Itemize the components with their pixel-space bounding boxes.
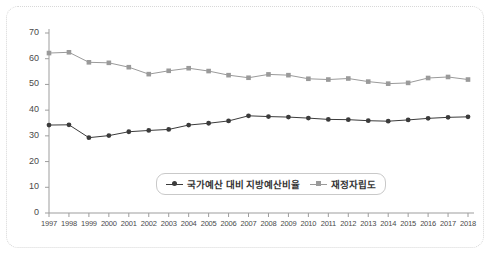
y-axis-tick-label: 50 (17, 79, 39, 88)
y-axis-tick-label: 10 (17, 182, 39, 191)
data-point (87, 60, 92, 65)
data-point (186, 123, 191, 128)
data-point (286, 115, 291, 120)
data-point (266, 114, 271, 119)
data-point (206, 69, 211, 74)
data-point (127, 65, 132, 70)
data-point (47, 123, 52, 128)
data-point (146, 72, 151, 77)
data-point (67, 50, 72, 55)
data-point (146, 128, 151, 133)
data-point (246, 113, 251, 118)
chart-figure: 0102030405060701997199819992000200120022… (0, 0, 492, 258)
data-point (106, 133, 111, 138)
data-point (446, 75, 451, 80)
x-axis-tick-label: 2018 (455, 220, 481, 228)
data-point (386, 81, 391, 86)
legend-square-marker-icon (310, 180, 327, 188)
y-axis-tick-label: 20 (17, 157, 39, 166)
data-point (266, 72, 271, 77)
data-point (67, 122, 72, 127)
data-point (226, 119, 231, 124)
data-point (306, 116, 311, 121)
data-point (166, 69, 171, 74)
y-axis-tick-label: 70 (17, 28, 39, 37)
legend-item: 재정자립도 (310, 177, 376, 191)
data-point (366, 118, 371, 123)
data-point (226, 73, 231, 78)
data-point (206, 121, 211, 126)
chart-legend: 국가예산 대비 지방예산비율재정자립도 (156, 173, 386, 195)
data-point (426, 76, 431, 81)
data-point (246, 75, 251, 80)
data-point (426, 116, 431, 121)
series-line-0 (49, 116, 468, 138)
data-point (386, 119, 391, 124)
data-point (466, 114, 471, 119)
data-point (406, 81, 411, 86)
legend-item: 국가예산 대비 지방예산비율 (166, 177, 300, 191)
data-point (107, 61, 112, 66)
data-point (306, 76, 311, 81)
y-axis-tick-label: 40 (17, 105, 39, 114)
data-point (166, 127, 171, 132)
data-point (406, 118, 411, 123)
data-point (126, 129, 131, 134)
data-point (326, 117, 331, 122)
legend-label: 재정자립도 (331, 177, 376, 191)
data-point (366, 79, 371, 84)
y-axis-tick-label: 0 (17, 208, 39, 217)
y-axis-tick-label: 60 (17, 54, 39, 63)
legend-label: 국가예산 대비 지방예산비율 (187, 177, 300, 191)
data-point (346, 76, 351, 81)
data-point (87, 135, 92, 140)
legend-circle-marker-icon (166, 180, 183, 188)
data-point (286, 73, 291, 78)
data-point (466, 77, 471, 82)
data-point (186, 66, 191, 71)
series-line-1 (49, 52, 468, 83)
data-point (326, 77, 331, 82)
data-point (47, 51, 52, 56)
y-axis-tick-label: 30 (17, 131, 39, 140)
data-point (446, 115, 451, 120)
data-point (346, 117, 351, 122)
